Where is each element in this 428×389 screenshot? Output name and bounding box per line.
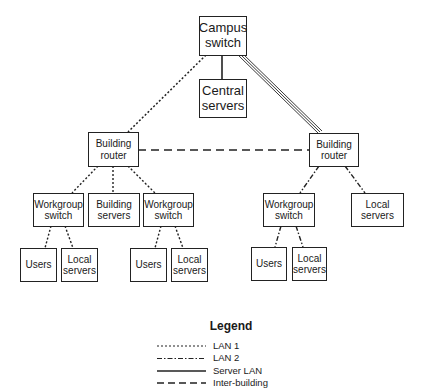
- legend-label-lan2: LAN 2: [213, 352, 239, 363]
- node-building-router-left: Building router: [88, 132, 139, 167]
- node-central-servers: Central servers: [199, 79, 247, 118]
- edge-campus-left-router: [128, 55, 206, 132]
- edge-wg3-local: [296, 226, 303, 247]
- node-users-1: Users: [20, 248, 57, 282]
- node-local-servers-3: Local servers: [292, 247, 327, 281]
- node-local-servers-right: Local servers: [351, 193, 404, 227]
- edge-right-router-local: [345, 166, 365, 193]
- node-workgroup-switch-2: Workgroup switch: [143, 193, 194, 227]
- legend-label-server-lan: Server LAN: [213, 365, 262, 376]
- edge-campus-right-router: [238, 53, 322, 133]
- node-local-servers-1: Local servers: [61, 248, 98, 282]
- edge-wg3-users: [275, 226, 281, 247]
- node-building-servers: Building servers: [88, 193, 140, 227]
- edge-right-router-wg3: [300, 166, 319, 193]
- legend-label-inter-building: Inter-building: [213, 377, 268, 388]
- node-local-servers-2: Local servers: [171, 248, 208, 282]
- legend-label-lan1: LAN 1: [213, 340, 239, 351]
- edge-left-router-wg1: [72, 166, 98, 193]
- edge-wg1-users: [45, 226, 51, 248]
- edge-wg2-local: [175, 226, 183, 248]
- legend-title: Legend: [206, 319, 256, 333]
- edge-wg1-local: [65, 226, 73, 248]
- node-workgroup-switch-1: Workgroup switch: [33, 193, 84, 227]
- node-users-3: Users: [251, 247, 287, 281]
- node-campus-switch: Campus switch: [199, 16, 247, 56]
- node-building-router-right: Building router: [309, 133, 359, 167]
- node-workgroup-switch-3: Workgroup switch: [263, 193, 315, 227]
- edge-wg2-users: [155, 226, 161, 248]
- node-users-2: Users: [130, 248, 167, 282]
- edge-left-router-wg2: [128, 166, 155, 193]
